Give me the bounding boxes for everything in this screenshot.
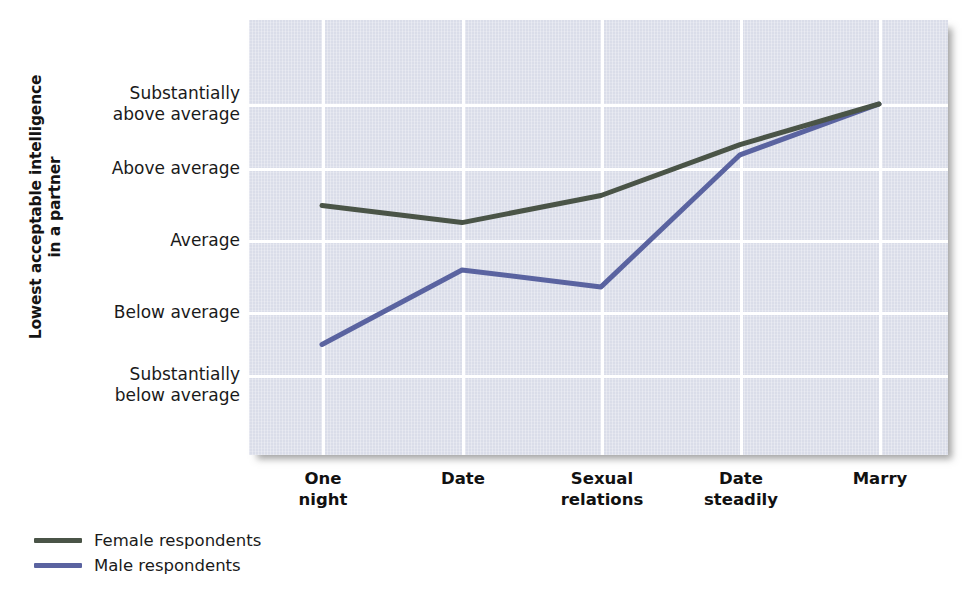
- chart-legend: Female respondents Male respondents: [34, 528, 261, 578]
- legend-item-male-respondents: Male respondents: [34, 553, 261, 578]
- line-female-respondents: [322, 104, 879, 223]
- y-tick-label-substantially-above-average: Substantially above average: [20, 83, 240, 125]
- legend-swatch-male-icon: [34, 563, 82, 568]
- data-lines: [249, 20, 948, 455]
- line-male-respondents: [322, 104, 879, 345]
- legend-label-female-respondents: Female respondents: [94, 531, 261, 550]
- legend-swatch-female-icon: [34, 538, 82, 543]
- x-tick-label-marry: Marry: [800, 468, 960, 489]
- legend-label-male-respondents: Male respondents: [94, 556, 241, 575]
- y-tick-label-substantially-below-average: Substantially below average: [20, 364, 240, 406]
- legend-item-female-respondents: Female respondents: [34, 528, 261, 553]
- y-tick-label-below-average: Below average: [20, 302, 240, 323]
- x-tick-label-date-steadily: Date steadily: [661, 468, 821, 510]
- y-tick-label-above-average: Above average: [20, 158, 240, 179]
- plot-area: [249, 20, 948, 455]
- chart-figure: Lowest acceptable intelligence in a part…: [0, 0, 972, 608]
- x-tick-label-sexual-relations: Sexual relations: [522, 468, 682, 510]
- x-tick-label-one-night: One night: [243, 468, 403, 510]
- y-tick-label-average: Average: [20, 230, 240, 251]
- x-tick-label-date: Date: [383, 468, 543, 489]
